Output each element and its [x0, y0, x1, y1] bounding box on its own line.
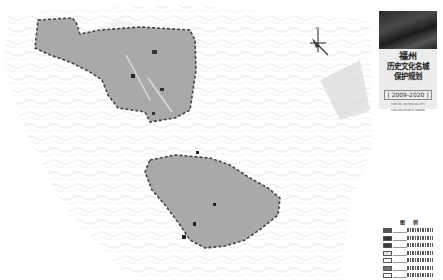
svg-text:N: N: [316, 26, 319, 31]
legend: [383, 228, 439, 280]
title-block: 福州 历史文化名城 保护规划 [ 2009-2020 ] FUZHOU HIST…: [379, 49, 437, 109]
title-line-2: 保护规划: [379, 72, 437, 82]
topographic-map: N: [0, 0, 380, 280]
legend-item: [383, 236, 439, 244]
map-canvas: N: [0, 0, 380, 280]
header-photo: [379, 11, 437, 49]
legend-title: 图 例: [400, 218, 421, 225]
title-city: 福州: [379, 51, 437, 62]
subtitle-en-2: CONSERVATION PLANNING: [379, 109, 437, 113]
title-years: [ 2009-2020 ]: [384, 90, 431, 100]
legend-item: [383, 243, 439, 251]
legend-item: [383, 228, 439, 236]
legend-item: [383, 273, 439, 280]
legend-item: [383, 258, 439, 266]
legend-item: [383, 266, 439, 274]
title-panel: 福州 历史文化名城 保护规划 [ 2009-2020 ] FUZHOU HIST…: [375, 6, 439, 280]
legend-item: [383, 251, 439, 259]
subtitle-en-1: FUZHOU HISTORICAL CITY: [379, 103, 437, 107]
title-line-1: 历史文化名城: [379, 62, 437, 72]
